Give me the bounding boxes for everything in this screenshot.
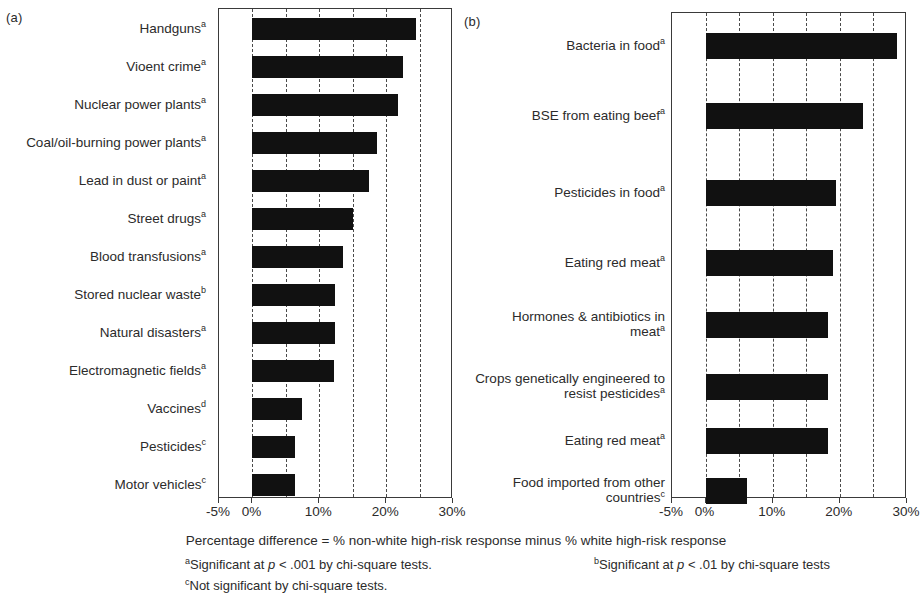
category-label: Pesticides in fooda — [554, 185, 665, 200]
category-label: Blood transfusionsa — [90, 249, 206, 264]
category-label: Bacteria in fooda — [566, 38, 665, 53]
axis-tick — [839, 498, 840, 503]
category-label: Lead in dust or painta — [79, 173, 206, 188]
bar — [252, 208, 353, 230]
axis-tick-label: 20% — [825, 504, 852, 519]
axis-tick — [906, 498, 907, 503]
axis-tick-label: 30% — [892, 504, 919, 519]
category-label: Nuclear power plantsa — [74, 97, 206, 112]
footnote-b: bSignificant at p < .01 by chi-square te… — [594, 557, 830, 572]
bar — [252, 18, 416, 40]
gridline — [420, 9, 421, 497]
category-label: Food imported from other countriesc — [475, 475, 665, 505]
bar — [252, 132, 376, 154]
category-label: Eating red meata — [565, 433, 665, 448]
bar — [252, 360, 334, 382]
figure-caption: Percentage difference = % non-white high… — [0, 533, 912, 548]
category-label: Stored nuclear wasteb — [74, 287, 206, 302]
axis-tick-label: 0% — [242, 504, 262, 519]
category-label: Vioent crimea — [126, 59, 206, 74]
bar — [706, 428, 829, 454]
panel-b-plot-area — [671, 12, 906, 498]
panel-a-x-axis: -5%0%10%20%30% — [218, 498, 452, 524]
category-label: Coal/oil-burning power plantsa — [26, 135, 206, 150]
bar — [252, 474, 294, 496]
category-label: Street drugsa — [127, 211, 206, 226]
bar — [706, 374, 829, 400]
panel-a-letter: (a) — [6, 10, 23, 25]
gridline — [840, 13, 841, 497]
axis-tick — [218, 498, 219, 503]
axis-tick — [385, 498, 386, 503]
category-label: BSE from eating beefa — [532, 108, 665, 123]
bar — [252, 246, 342, 268]
axis-tick-label: 0% — [695, 504, 715, 519]
axis-tick — [671, 498, 672, 503]
axis-tick-label: 10% — [758, 504, 785, 519]
bar — [252, 322, 335, 344]
panel-b: (b) Bacteria in foodaBSE from eating bee… — [456, 0, 912, 540]
bar — [252, 56, 402, 78]
axis-tick — [318, 498, 319, 503]
axis-tick-label: 20% — [372, 504, 399, 519]
panel-a: (a) HandgunsaVioent crimeaNuclear power … — [0, 0, 456, 540]
bar — [706, 103, 864, 129]
gridline — [353, 9, 354, 497]
bar — [706, 33, 897, 59]
axis-tick — [251, 498, 252, 503]
panel-b-letter: (b) — [464, 14, 481, 29]
bar — [252, 398, 301, 420]
axis-tick-label: -5% — [659, 504, 683, 519]
category-label: Vaccinesd — [147, 401, 206, 416]
bar — [706, 250, 834, 276]
category-label: Eating red meata — [565, 255, 665, 270]
gridline — [873, 13, 874, 497]
bar — [706, 312, 829, 338]
category-label: Electromagnetic fieldsa — [69, 363, 206, 378]
category-label: Hormones & antibiotics in meata — [475, 309, 665, 339]
category-label: Handgunsa — [139, 21, 206, 36]
bar — [252, 170, 369, 192]
bar — [706, 180, 837, 206]
category-label: Motor vehiclesc — [114, 477, 206, 492]
bar — [252, 436, 295, 458]
bar — [252, 284, 334, 306]
category-label: Pesticidesc — [140, 439, 206, 454]
footnote-c: cNot significant by chi-square tests. — [185, 578, 387, 593]
bar — [252, 94, 398, 116]
axis-tick — [452, 498, 453, 503]
panel-b-x-axis: -5%0%10%20%30% — [671, 498, 906, 524]
footnote-a: aSignificant at p < .001 by chi-square t… — [185, 557, 432, 572]
category-label: Crops genetically engineered to resist p… — [475, 371, 665, 401]
gridline — [386, 9, 387, 497]
category-label: Natural disastersa — [100, 325, 206, 340]
axis-tick — [772, 498, 773, 503]
axis-tick-label: 10% — [305, 504, 332, 519]
panel-a-plot-area — [218, 8, 452, 498]
axis-tick-label: -5% — [206, 504, 230, 519]
axis-tick — [705, 498, 706, 503]
